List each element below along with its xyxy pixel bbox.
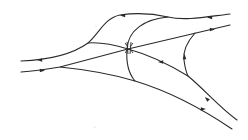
upper-outer-trajectory-curve (21, 14, 230, 61)
trajectory-curves (21, 14, 237, 129)
flow-arrows (37, 14, 215, 111)
arrow-upper-left-icon (37, 58, 42, 62)
arrow-right-lower-b-icon (201, 107, 206, 111)
center-tick-5 (130, 42, 131, 54)
scan-specks (95, 26, 97, 128)
speck-0 (96, 26, 97, 27)
inner-left-branch-curve (88, 43, 128, 49)
right-loop-curve (184, 33, 195, 76)
arrow-right-loop-icon (183, 54, 187, 59)
arrow-right-lower-a-icon (204, 96, 210, 102)
speck-1 (95, 127, 96, 128)
phase-portrait-diagram (0, 0, 248, 140)
vertical-separatrix-curve (127, 17, 168, 81)
